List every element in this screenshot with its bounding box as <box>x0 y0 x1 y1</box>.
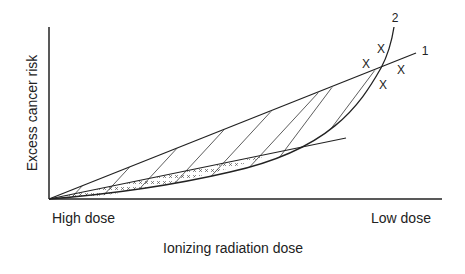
label-line-1: 1 <box>422 44 429 58</box>
marker-x: X <box>362 57 370 71</box>
x-left-label: High dose <box>52 210 115 226</box>
label-curve-2: 2 <box>392 11 399 25</box>
data-markers: X X X X <box>362 42 405 92</box>
marker-x: X <box>377 42 385 56</box>
marker-x: X <box>379 78 387 92</box>
x-right-label: Low dose <box>371 210 431 226</box>
y-axis-label: Excess cancer risk <box>24 55 40 172</box>
tangent-line <box>49 138 346 199</box>
marker-x: X <box>397 63 405 77</box>
x-axis-label: Ionizing radiation dose <box>163 240 303 256</box>
line-1-linear <box>49 53 416 199</box>
diagram-canvas: X X X X 2 1 <box>0 0 465 274</box>
